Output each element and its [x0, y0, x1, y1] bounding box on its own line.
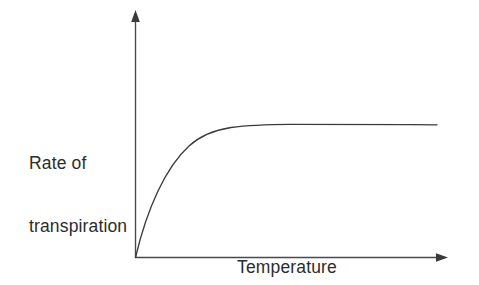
transpiration-temperature-figure: Rate of transpiration Temperature — [0, 0, 479, 285]
transpiration-curve — [136, 124, 438, 257]
y-axis-label-line-2: transpiration — [29, 216, 127, 237]
x-axis-label: Temperature — [237, 257, 337, 278]
y-axis-label: Rate of transpiration — [29, 111, 127, 279]
y-axis-label-line-1: Rate of — [29, 153, 127, 174]
x-axis-arrowhead — [436, 253, 448, 262]
y-axis-arrowhead — [131, 10, 140, 22]
